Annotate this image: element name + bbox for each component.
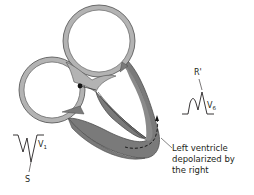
annotation-line-2: depolarized by — [172, 154, 235, 165]
s-wave-label: S — [25, 174, 30, 185]
v1-label: V1 — [38, 139, 47, 153]
v6-subscript: 6 — [212, 105, 216, 111]
annotation-line-1: Left ventricle — [172, 143, 235, 154]
atria — [19, 5, 135, 123]
r-prime-label: R' — [194, 67, 202, 78]
v6-label: V6 — [207, 100, 216, 114]
annotation-pointer — [161, 138, 172, 148]
v1-subscript: 1 — [43, 144, 47, 150]
annotation-text: Left ventricle depolarized by the right — [172, 143, 235, 176]
annotation-line-3: the right — [172, 165, 235, 176]
